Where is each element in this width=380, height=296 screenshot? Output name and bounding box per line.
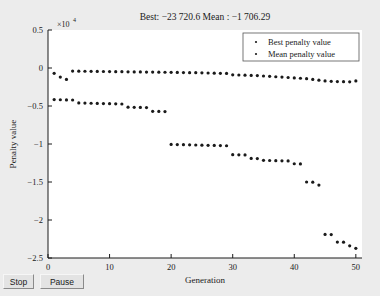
data-point [323, 79, 326, 82]
data-point [274, 159, 277, 162]
data-point [274, 75, 277, 78]
data-point [219, 72, 222, 75]
y-tick-label: −2 [34, 215, 43, 225]
data-point [354, 79, 357, 82]
x-tick-label: 10 [105, 262, 114, 272]
data-point [323, 233, 326, 236]
exponent-power: 4 [73, 17, 76, 23]
data-point [139, 106, 142, 109]
data-point [133, 70, 136, 73]
pause-button[interactable]: Pause [40, 274, 84, 289]
exponent-base: ×10 [57, 20, 70, 29]
data-point [83, 102, 86, 105]
data-point [299, 162, 302, 165]
legend-marker-mean [255, 53, 257, 55]
data-point [170, 143, 173, 146]
data-point [317, 79, 320, 82]
data-point [176, 71, 179, 74]
data-point [194, 143, 197, 146]
data-point [176, 143, 179, 146]
legend-label-best: Best penalty value [268, 37, 331, 47]
data-point [53, 72, 56, 75]
data-point [188, 71, 191, 74]
x-tick-label: 40 [290, 262, 299, 272]
data-point [77, 70, 80, 73]
data-point [71, 98, 74, 101]
data-point [330, 80, 333, 83]
data-point [96, 102, 99, 105]
data-point [170, 71, 173, 74]
data-point [262, 74, 265, 77]
data-point [120, 70, 123, 73]
data-point [231, 153, 234, 156]
y-tick-label: −1 [34, 139, 43, 149]
data-point [145, 106, 148, 109]
data-point [268, 159, 271, 162]
stop-button[interactable]: Stop [3, 274, 34, 289]
data-point [336, 80, 339, 83]
data-point [268, 75, 271, 78]
data-point [256, 157, 259, 160]
data-point [188, 143, 191, 146]
data-point [243, 153, 246, 156]
data-point [108, 70, 111, 73]
data-point [90, 70, 93, 73]
data-point [200, 144, 203, 147]
data-point [225, 72, 228, 75]
data-point [336, 240, 339, 243]
plot-area-background [48, 30, 362, 258]
data-point [65, 78, 68, 81]
data-point [348, 80, 351, 83]
data-point [206, 71, 209, 74]
data-point [206, 144, 209, 147]
data-point [163, 71, 166, 74]
y-tick-label: −1.5 [28, 177, 43, 187]
data-point [83, 70, 86, 73]
data-point [108, 102, 111, 105]
x-axis-label: Generation [185, 275, 225, 285]
data-point [157, 110, 160, 113]
data-point [354, 247, 357, 250]
data-point [59, 76, 62, 79]
data-point [280, 76, 283, 79]
data-point [243, 74, 246, 77]
data-point [139, 70, 142, 73]
data-point [287, 159, 290, 162]
data-point [225, 144, 228, 147]
data-point [250, 157, 253, 160]
data-point [299, 77, 302, 80]
data-point [219, 144, 222, 147]
data-point [213, 144, 216, 147]
data-point [96, 70, 99, 73]
data-point [77, 101, 80, 104]
data-point [237, 153, 240, 156]
data-point [157, 71, 160, 74]
data-point [65, 98, 68, 101]
data-point [311, 181, 314, 184]
data-point [114, 102, 117, 105]
data-point [200, 71, 203, 74]
y-tick-label: −0.5 [28, 101, 43, 111]
data-point [102, 70, 105, 73]
data-point [293, 162, 296, 165]
data-point [280, 159, 283, 162]
data-point [342, 241, 345, 244]
legend-label-mean: Mean penalty value [268, 49, 335, 59]
data-point [102, 102, 105, 105]
data-point [120, 102, 123, 105]
data-point [163, 110, 166, 113]
data-point [182, 71, 185, 74]
penalty-value-chart: Best: −23 720.6 Mean : −1 706.29 ×10 4 0… [0, 0, 380, 296]
y-tick-label: 0.5 [32, 25, 43, 35]
data-point [287, 76, 290, 79]
data-point [151, 71, 154, 74]
data-point [262, 159, 265, 162]
x-tick-label: 0 [46, 262, 50, 272]
data-point [114, 70, 117, 73]
y-axis-label: Penalty value [8, 120, 18, 169]
data-point [126, 70, 129, 73]
data-point [151, 110, 154, 113]
y-tick-label: 0 [39, 63, 43, 73]
data-point [126, 106, 129, 109]
data-point [256, 74, 259, 77]
